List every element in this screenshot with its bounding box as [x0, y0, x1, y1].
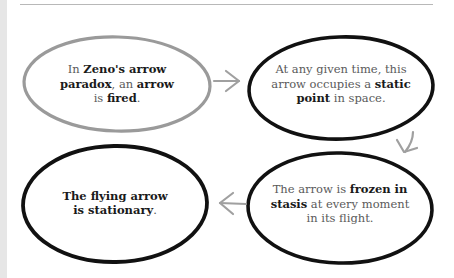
- node-3: The arrow is frozen in stasis at every m…: [260, 170, 420, 238]
- node-4-text: The flying arrow is stationary.: [62, 189, 167, 218]
- text-bold: stasis: [271, 197, 308, 211]
- arrow-down-icon: [397, 132, 417, 152]
- text-regular: is: [94, 91, 107, 105]
- text-regular: in its flight.: [307, 211, 374, 225]
- node-2-text: At any given time, this arrow occupies a…: [271, 62, 410, 106]
- text-regular: The arrow is: [273, 182, 350, 196]
- text-bold: The flying arrow: [62, 189, 167, 203]
- node-2: At any given time, this arrow occupies a…: [260, 50, 422, 118]
- arrow-left-icon: [220, 193, 246, 214]
- node-1: In Zeno's arrow paradox, an arrow is fir…: [40, 50, 194, 118]
- text-regular: In: [68, 62, 84, 76]
- arrow-right-icon: [214, 71, 239, 91]
- text-regular: in space.: [330, 91, 385, 105]
- text-regular: arrow occupies a: [271, 77, 374, 91]
- text-regular: at every moment: [307, 197, 409, 211]
- text-bold: arrow: [137, 77, 174, 91]
- text-bold: frozen in: [350, 182, 408, 196]
- text-regular: At any given time, this: [275, 62, 406, 76]
- text-bold: point: [296, 91, 330, 105]
- text-regular: , an: [112, 77, 137, 91]
- text-regular: .: [137, 91, 141, 105]
- text-bold: is stationary: [73, 203, 153, 217]
- node-3-text: The arrow is frozen in stasis at every m…: [271, 182, 410, 226]
- text-bold: Zeno's arrow: [83, 62, 166, 76]
- node-1-text: In Zeno's arrow paradox, an arrow is fir…: [60, 62, 174, 106]
- text-bold: static: [375, 77, 411, 91]
- node-4: The flying arrow is stationary.: [38, 178, 192, 228]
- text-bold: paradox: [60, 77, 112, 91]
- text-regular: .: [153, 203, 157, 217]
- text-bold: fired: [107, 91, 137, 105]
